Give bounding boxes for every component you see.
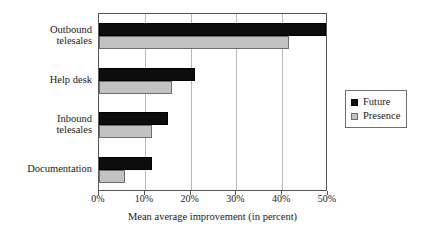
gray-square-icon bbox=[351, 113, 358, 120]
legend-item-presence: Presence bbox=[351, 109, 400, 123]
y-axis-label-line: Documentation bbox=[0, 163, 92, 175]
bar-presence-3 bbox=[99, 170, 125, 183]
x-tick-label: 30% bbox=[215, 193, 255, 204]
bar-presence-1 bbox=[99, 81, 172, 94]
legend-label-presence: Presence bbox=[363, 109, 400, 123]
legend-item-future: Future bbox=[351, 95, 400, 109]
bar-future-1 bbox=[99, 68, 195, 81]
bar-presence-0 bbox=[99, 36, 289, 49]
legend-label-future: Future bbox=[363, 95, 390, 109]
x-tick-label: 50% bbox=[307, 193, 347, 204]
y-axis-label-line: Inbound bbox=[0, 113, 92, 125]
bar-presence-2 bbox=[99, 125, 152, 138]
y-axis-label-line: Outbound bbox=[0, 24, 92, 36]
x-tick-label: 0% bbox=[78, 193, 118, 204]
plot-area bbox=[98, 13, 327, 191]
x-tick-label: 40% bbox=[261, 193, 301, 204]
x-tick-label: 10% bbox=[124, 193, 164, 204]
y-axis-label-2: Inboundtelesales bbox=[0, 113, 92, 136]
y-axis-label-line: telesales bbox=[0, 124, 92, 136]
y-axis-label-1: Help desk bbox=[0, 74, 92, 86]
bar-future-3 bbox=[99, 157, 152, 170]
bar-chart: OutboundtelesalesHelp deskInboundtelesal… bbox=[0, 0, 428, 246]
x-tick-label: 20% bbox=[170, 193, 210, 204]
bar-future-2 bbox=[99, 112, 168, 125]
y-axis-label-line: Help desk bbox=[0, 74, 92, 86]
y-axis-label-3: Documentation bbox=[0, 163, 92, 175]
y-axis-label-line: telesales bbox=[0, 35, 92, 47]
black-square-icon bbox=[351, 99, 358, 106]
legend: Future Presence bbox=[345, 90, 407, 128]
y-axis-label-0: Outboundtelesales bbox=[0, 24, 92, 47]
x-axis-title: Mean average improvement (in percent) bbox=[98, 211, 327, 222]
bar-future-0 bbox=[99, 23, 326, 36]
